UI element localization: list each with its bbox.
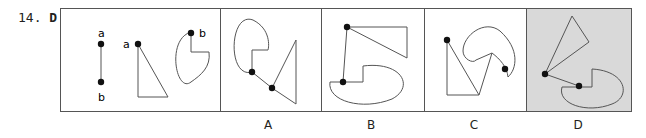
svg-text:b: b xyxy=(199,27,206,40)
svg-text:a: a xyxy=(98,27,105,40)
option-d-label: D xyxy=(568,118,588,132)
figure-row: a b a b xyxy=(60,8,632,112)
question-number: 14. D xyxy=(18,10,57,25)
option-a-figure xyxy=(221,9,322,113)
answer-key: D xyxy=(49,10,57,25)
svg-text:b: b xyxy=(98,91,105,104)
option-d-panel[interactable] xyxy=(527,9,631,111)
option-d-figure xyxy=(527,9,631,113)
option-a-label: A xyxy=(258,118,278,132)
stem-figures: a b a b xyxy=(61,9,221,113)
stem-panel: a b a b xyxy=(61,9,221,111)
option-b-figure xyxy=(322,9,426,113)
svg-text:a: a xyxy=(123,38,130,51)
option-c-panel[interactable] xyxy=(425,9,527,111)
option-b-panel[interactable] xyxy=(322,9,426,111)
option-c-label: C xyxy=(464,118,484,132)
option-a-panel[interactable] xyxy=(221,9,322,111)
option-b-label: B xyxy=(361,118,381,132)
option-c-figure xyxy=(425,9,527,113)
